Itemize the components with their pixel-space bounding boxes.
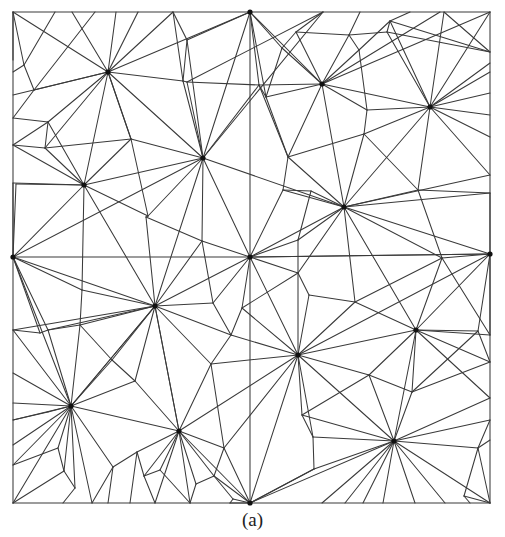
mesh-edge: [322, 35, 349, 84]
mesh-edge: [478, 448, 490, 503]
mesh-edge: [45, 72, 108, 148]
mesh-edge: [34, 12, 95, 90]
mesh-edge: [322, 84, 430, 107]
mesh-edge: [288, 134, 364, 157]
mesh-edge: [13, 471, 64, 503]
mesh-edge: [148, 158, 203, 216]
mesh-edge: [369, 375, 394, 441]
mesh-hub-node: [341, 204, 346, 209]
mesh-edge: [155, 257, 250, 306]
mesh-edge: [298, 330, 416, 355]
mesh-edge: [92, 467, 113, 503]
mesh-edge: [64, 471, 75, 488]
mesh-edge: [203, 12, 250, 158]
mesh-edge: [283, 157, 288, 190]
mesh-edge: [108, 12, 173, 72]
mesh-edge: [224, 355, 298, 448]
mesh-edge: [183, 81, 203, 158]
mesh-edge: [82, 185, 84, 290]
mesh-edge: [394, 398, 490, 441]
mesh-edge: [298, 254, 490, 355]
mesh-edge: [266, 48, 282, 97]
mesh-edge: [282, 32, 296, 48]
mesh-edge: [298, 207, 344, 273]
mesh-hub-node: [319, 81, 324, 86]
mesh-edge: [13, 65, 24, 72]
mesh-edge: [203, 158, 344, 207]
mesh-edge: [349, 12, 360, 35]
mesh-edge: [416, 330, 490, 362]
mesh-hub-node: [487, 251, 492, 256]
mesh-edge: [349, 35, 359, 50]
mesh-edge: [464, 496, 490, 503]
mesh-edge: [367, 107, 430, 110]
mesh-edge: [464, 448, 478, 496]
mesh-hub-node: [295, 352, 300, 357]
mesh-hub-node: [68, 403, 73, 408]
mesh-edge: [80, 325, 112, 360]
mesh-edge: [250, 257, 298, 355]
mesh-edge: [211, 355, 298, 364]
mesh-hub-node: [81, 182, 86, 187]
mesh-edge: [13, 412, 48, 420]
mesh-edge: [155, 306, 179, 431]
mesh-edge: [322, 84, 367, 110]
mesh-edge: [224, 448, 250, 503]
mesh-edge: [160, 431, 179, 470]
mesh-edge: [24, 65, 34, 90]
mesh-hub-node: [105, 69, 110, 74]
mesh-edge: [13, 330, 40, 333]
mesh-edge: [45, 122, 48, 148]
mesh-edge: [82, 290, 155, 306]
mesh-edge: [108, 72, 183, 81]
mesh-edge: [84, 185, 155, 306]
mesh-edge: [137, 452, 144, 476]
mesh-edge: [84, 139, 131, 185]
mesh-edge: [344, 193, 490, 207]
mesh-edge: [108, 467, 113, 503]
mesh-edge: [155, 241, 202, 306]
mesh-edge: [183, 40, 187, 81]
mesh-edge: [13, 118, 48, 122]
mesh-edge: [298, 355, 394, 441]
mesh-edge: [345, 441, 394, 503]
mesh-edge: [146, 217, 202, 241]
mesh-edge: [231, 308, 242, 335]
mesh-edge: [298, 273, 309, 295]
mesh-edge: [131, 139, 148, 216]
mesh-edge: [213, 257, 250, 303]
mesh-edge: [322, 12, 440, 84]
mesh-edge: [71, 381, 135, 406]
mesh-edge: [13, 158, 203, 257]
mesh-edge: [250, 12, 282, 48]
mesh-edge: [48, 122, 84, 185]
mesh-edge: [71, 306, 155, 406]
mesh-edge: [71, 406, 179, 431]
mesh-edge: [155, 306, 231, 335]
mesh-edge: [296, 32, 322, 84]
mesh-edge: [418, 190, 490, 193]
mesh-edge: [322, 12, 490, 84]
mesh-edge: [250, 207, 344, 257]
mesh-edge: [355, 302, 416, 330]
mesh-edge: [430, 12, 444, 107]
mesh-edge: [309, 295, 355, 302]
mesh-edge: [322, 441, 394, 503]
mesh-edge: [13, 448, 58, 465]
mesh-edge: [196, 476, 214, 484]
mesh-hub-node: [427, 104, 432, 109]
mesh-edge: [259, 84, 322, 85]
mesh-edge: [203, 158, 250, 257]
mesh-edge: [130, 452, 137, 503]
mesh-hub-node: [247, 500, 252, 505]
mesh-edge: [187, 82, 203, 158]
mesh-hub-node: [10, 254, 15, 259]
mesh-edge: [13, 403, 71, 406]
mesh-edge: [13, 257, 71, 406]
mesh-hub-node: [176, 428, 181, 433]
mesh-hub-node: [391, 438, 396, 443]
mesh-edge: [230, 499, 233, 503]
mesh-edge: [364, 107, 430, 134]
mesh-edge: [288, 84, 322, 157]
mesh-edge: [231, 335, 298, 355]
